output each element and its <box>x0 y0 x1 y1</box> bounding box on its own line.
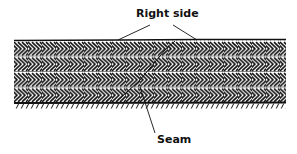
right-side-leader-right <box>173 25 197 40</box>
right-side-leader-left <box>118 25 150 40</box>
bottom-edge <box>14 103 286 104</box>
fabric-illustration <box>0 0 297 154</box>
underside-hatching <box>14 104 286 109</box>
right-side-label: Right side <box>136 7 199 20</box>
fabric-layers <box>14 40 286 104</box>
seam-label: Seam <box>157 133 191 146</box>
